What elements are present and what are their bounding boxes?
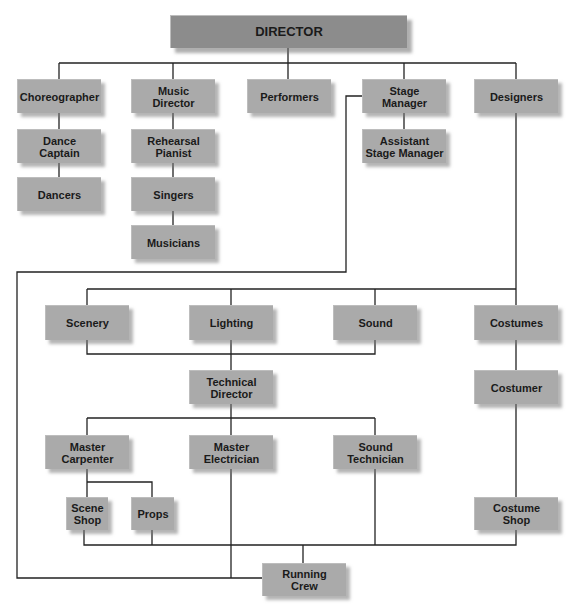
node-label: Rehearsal Pianist [147, 135, 200, 159]
node-singers[interactable]: Singers [131, 177, 215, 211]
node-label: Dance Captain [39, 135, 79, 159]
node-label: DIRECTOR [255, 26, 323, 38]
node-label: Sound Technician [347, 441, 404, 465]
node-label: Performers [260, 91, 319, 103]
node-lighting[interactable]: Lighting [189, 305, 273, 340]
node-label: Lighting [210, 317, 253, 329]
node-label: Technical Director [207, 376, 257, 400]
node-label: Musicians [147, 237, 200, 249]
node-director[interactable]: DIRECTOR [170, 15, 407, 48]
node-designers[interactable]: Designers [474, 79, 558, 113]
node-rehearsal-pianist[interactable]: Rehearsal Pianist [131, 129, 215, 163]
node-label: Running Crew [282, 568, 327, 592]
node-scene-shop[interactable]: Scene Shop [66, 497, 108, 530]
node-scenery[interactable]: Scenery [45, 305, 129, 340]
node-running-crew[interactable]: Running Crew [262, 563, 346, 596]
node-label: Master Carpenter [62, 441, 114, 465]
node-label: Master Electrician [204, 441, 260, 465]
node-costumes[interactable]: Costumes [474, 305, 558, 340]
node-label: Costumer [491, 382, 542, 394]
node-label: Assistant Stage Manager [365, 135, 443, 159]
node-label: Choreographer [20, 91, 99, 103]
node-label: Dancers [38, 189, 81, 201]
node-assistant-stage-manager[interactable]: Assistant Stage Manager [362, 129, 446, 163]
node-label: Music Director [152, 85, 194, 109]
node-dance-captain[interactable]: Dance Captain [17, 129, 101, 163]
org-chart: DIRECTOR Choreographer Music Director Pe… [0, 0, 577, 609]
node-label: Props [137, 508, 168, 520]
node-label: Costumes [490, 317, 543, 329]
node-master-carpenter[interactable]: Master Carpenter [45, 435, 129, 469]
node-label: Costume Shop [493, 502, 540, 526]
node-costume-shop[interactable]: Costume Shop [474, 497, 558, 530]
node-label: Singers [153, 189, 193, 201]
node-musicians[interactable]: Musicians [131, 225, 215, 259]
node-label: Scene Shop [71, 502, 103, 526]
node-sound[interactable]: Sound [333, 305, 417, 340]
node-master-electrician[interactable]: Master Electrician [189, 435, 273, 469]
node-label: Stage Manager [382, 85, 427, 109]
node-label: Designers [490, 91, 543, 103]
node-technical-director[interactable]: Technical Director [189, 370, 273, 404]
node-choreographer[interactable]: Choreographer [17, 79, 101, 113]
node-costumer[interactable]: Costumer [474, 370, 558, 404]
node-stage-manager[interactable]: Stage Manager [362, 79, 446, 113]
node-performers[interactable]: Performers [247, 79, 331, 113]
node-label: Sound [358, 317, 392, 329]
node-music-director[interactable]: Music Director [131, 79, 215, 113]
node-props[interactable]: Props [131, 497, 174, 530]
node-label: Scenery [66, 317, 109, 329]
node-sound-technician[interactable]: Sound Technician [333, 435, 417, 469]
node-dancers[interactable]: Dancers [17, 177, 101, 211]
